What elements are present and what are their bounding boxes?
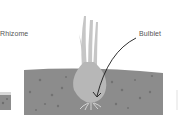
onion-leaves [79,16,98,70]
plant-diagram [0,0,178,121]
right-edge-panel [176,90,178,110]
left-soil-panel [0,92,11,110]
